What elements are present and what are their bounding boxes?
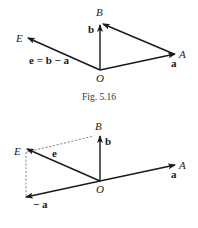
figure-caption: Fig. 5.16 bbox=[82, 92, 116, 102]
vector-a-arrow bbox=[100, 54, 175, 70]
vector-label-e: e bbox=[52, 147, 57, 159]
vector-label-b: b bbox=[105, 135, 111, 147]
dashed-line-e-to-b bbox=[27, 136, 94, 152]
vector-diagram: B E A O b a e = b − a Fig. 5.16 B E A O … bbox=[0, 0, 198, 228]
vector-label-b: b bbox=[88, 23, 94, 35]
point-label-o: O bbox=[96, 72, 104, 84]
vector-label-a: a bbox=[171, 57, 177, 69]
point-label-o: O bbox=[96, 183, 104, 195]
vector-ab-arrow bbox=[103, 24, 174, 54]
point-label-e: E bbox=[13, 145, 21, 157]
point-label-a: A bbox=[178, 159, 186, 171]
vector-neg-a-arrow bbox=[26, 181, 100, 197]
point-label-a: A bbox=[178, 48, 186, 60]
figure-bottom: B E A O b a e − a bbox=[13, 120, 186, 210]
point-label-b: B bbox=[96, 6, 103, 18]
vector-label-a: a bbox=[171, 168, 177, 180]
point-label-e: E bbox=[15, 32, 23, 44]
vector-e-arrow bbox=[27, 149, 100, 181]
vector-a-arrow bbox=[100, 165, 175, 181]
vector-label-neg-a: − a bbox=[33, 198, 48, 210]
figure-top: B E A O b a e = b − a Fig. 5.16 bbox=[15, 6, 186, 102]
point-label-b: B bbox=[95, 120, 102, 132]
vector-label-e-equation: e = b − a bbox=[29, 54, 70, 66]
